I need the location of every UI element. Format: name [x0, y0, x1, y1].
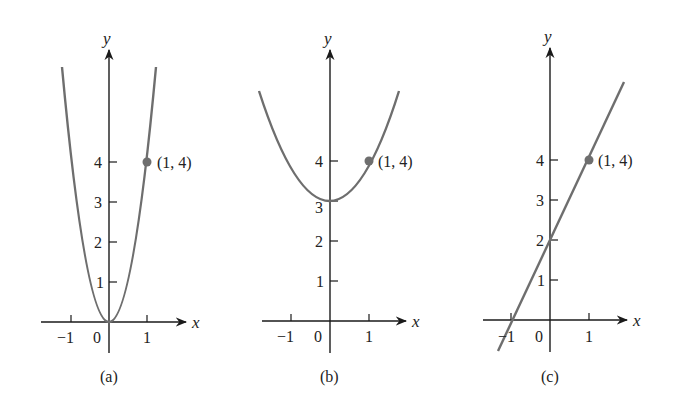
x-tick-label-0: 0: [314, 328, 322, 345]
y-tick-label-2: 2: [536, 232, 544, 249]
y-tick-label-3: 3: [536, 192, 544, 209]
parabola-curve: [259, 91, 399, 201]
x-tick-label-0: 0: [535, 328, 543, 345]
figure-three-graphs: y x −1 0 1 1 2 3 4 (1, 4) (a) y x −1 0 1…: [0, 0, 684, 409]
y-tick-label-1: 1: [537, 272, 545, 289]
linear-line: [498, 82, 624, 351]
y-axis-label: y: [101, 29, 111, 48]
graph-c: y x −1 0 1 1 2 3 4 (1, 4) (c): [483, 27, 641, 386]
x-tick-label-0: 0: [93, 329, 101, 346]
y-tick-label-3: 3: [94, 194, 102, 211]
y-tick-label-3: 3: [315, 199, 323, 216]
point-marker: [143, 158, 152, 167]
x-tick-label-minus1: −1: [277, 328, 294, 345]
x-tick-label-1: 1: [365, 328, 373, 345]
x-axis-label: x: [191, 313, 200, 332]
y-axis-label: y: [322, 29, 332, 48]
point-label: (1, 4): [378, 153, 413, 171]
y-tick-label-2: 2: [315, 233, 323, 250]
graph-b: y x −1 0 1 1 2 3 4 (1, 4) (b): [259, 29, 420, 386]
x-tick-label-minus1: −1: [57, 329, 74, 346]
x-tick-label-minus1: −1: [498, 328, 515, 345]
y-tick-label-2: 2: [94, 234, 102, 251]
y-axis-label: y: [542, 27, 552, 46]
point-marker: [585, 156, 594, 165]
y-tick-label-4: 4: [536, 152, 544, 169]
y-tick-label-1: 1: [316, 273, 324, 290]
x-axis-label: x: [632, 311, 641, 330]
x-axis-label: x: [411, 312, 420, 331]
point-label: (1, 4): [598, 152, 633, 170]
caption-c: (c): [541, 368, 559, 386]
y-tick-label-1: 1: [96, 274, 104, 291]
y-tick-label-4: 4: [94, 154, 102, 171]
caption-b: (b): [320, 368, 339, 386]
x-tick-label-1: 1: [585, 328, 593, 345]
caption-a: (a): [100, 368, 118, 386]
x-tick-label-1: 1: [143, 329, 151, 346]
graph-a: y x −1 0 1 1 2 3 4 (1, 4) (a): [41, 29, 200, 386]
y-tick-label-4: 4: [315, 153, 323, 170]
point-marker: [365, 157, 374, 166]
point-label: (1, 4): [157, 154, 192, 172]
